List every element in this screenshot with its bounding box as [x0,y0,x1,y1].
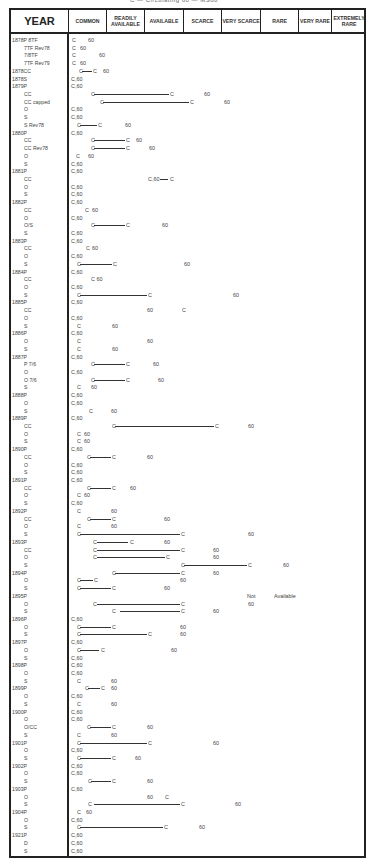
range-bar [80,827,163,828]
range-bar [80,534,180,535]
range-bar [80,125,97,126]
range-bar [184,565,247,566]
header-common: COMMON [68,10,106,32]
range-bar [94,94,169,95]
range-bar [80,634,147,635]
value-marker: C,60 [71,847,82,855]
range-bar [80,758,111,759]
range-bar [97,542,128,543]
range-bar [82,71,92,72]
range-bar [90,488,111,489]
header-year: YEAR [11,10,68,32]
range-bar [94,364,125,365]
range-bar [90,457,111,458]
range-bar [120,611,180,612]
range-bar [88,688,100,689]
range-bar [94,804,180,805]
range-bar [80,264,112,265]
range-bar [80,588,111,589]
range-bar [80,743,147,744]
range-bar [97,604,180,605]
range-bar [94,140,125,141]
range-bar [115,426,214,427]
range-bar [94,148,125,149]
range-bar [94,225,125,226]
table-row: SC,60 [11,847,364,855]
range-bar [91,781,111,782]
range-bar [115,573,180,574]
header-rare: RARE [260,10,298,32]
range-bar [90,519,111,520]
range-bar [97,557,165,558]
rarity-table: YEAR COMMONREADILY AVAILABLEAVAILABLESCA… [9,8,366,858]
header-extremely-rare: EXTREMELY RARE [331,10,366,32]
header-available: AVAILABLE [144,10,183,32]
range-bar [97,550,180,551]
range-bar [94,380,125,381]
row-label: S [24,847,27,855]
legend-caption: C — Circulating 60 — MS60 [130,0,218,3]
range-bar [80,627,111,628]
range-bar [103,102,189,103]
range-bar [80,580,93,581]
header-readily-available: READILY AVAILABLE [106,10,144,32]
header-very-scarce: VERY SCARCE [221,10,260,32]
range-bar [160,179,168,180]
range-bar [80,295,147,296]
range-bar [80,650,99,651]
range-bar [90,727,111,728]
header-scarce: SCARCE [183,10,221,32]
header-very-rare: VERY RARE [298,10,331,32]
table-header: YEAR COMMONREADILY AVAILABLEAVAILABLESCA… [11,10,364,34]
